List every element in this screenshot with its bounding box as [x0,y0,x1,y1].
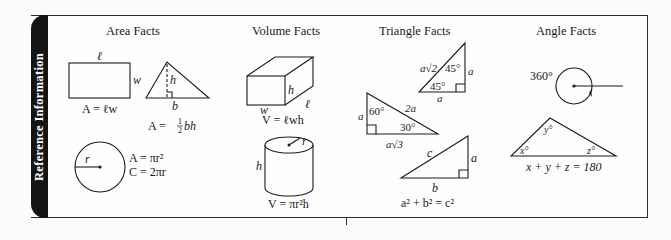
label-45-hypotenuse: a√2 [420,62,438,74]
svg-text:1: 1 [178,117,182,126]
rotation-center-dot [572,84,575,87]
label-triangle-base: b [172,99,178,113]
label-360-degrees: 360° [530,69,553,83]
formula-pythagorean: a² + b² = c² [401,196,454,210]
label-45-angle-bottom: 45° [430,80,445,92]
label-30-hypotenuse: 2a [405,102,417,114]
formula-angle-sum: x + y + z = 180 [525,160,602,174]
formula-circle-area: A = πr² [129,151,164,165]
label-box-height: h [288,83,294,97]
formula-cylinder-volume: V = πr²h [268,197,309,211]
cylinder-center-dot [288,144,291,147]
rectangle-figure [69,63,130,98]
label-45-angle-top: 45° [445,62,460,74]
formula-triangle-area: A = 1 2 bh [148,117,196,135]
formula-box-volume: V = ℓwh [262,113,304,127]
label-45-leg-vertical: a [468,65,474,77]
formula-rect-area: A = ℓw [82,102,118,116]
rectangular-prism-figure [247,57,313,105]
label-cylinder-height: h [256,159,262,173]
label-circle-radius: r [85,152,90,166]
circle-center-dot [98,165,101,168]
label-right-hypotenuse: c [427,146,433,160]
label-45-leg-horizontal: a [437,92,443,104]
triangle-area-figure [146,62,209,98]
label-30-long-leg: a√3 [386,138,404,150]
right-triangle-figure [401,136,468,178]
label-angle-x: x° [519,145,528,156]
label-30-angle: 30° [400,121,415,133]
formula-circle-circumference: C = 2πr [129,165,166,179]
svg-text:2: 2 [178,126,182,135]
svg-text:A =: A = [148,119,166,133]
label-angle-z: z° [586,145,595,156]
label-60-angle: 60° [369,105,384,117]
label-right-leg-vertical: a [471,151,477,165]
label-right-leg-horizontal: b [432,181,438,195]
label-cylinder-radius: r [302,134,307,148]
full-rotation-figure [556,68,623,104]
label-rect-width: w [133,73,141,87]
label-30-short-leg: a [358,110,364,122]
label-angle-y: y° [543,124,552,135]
label-box-length: ℓ [305,97,310,111]
svg-text:bh: bh [184,119,196,133]
label-rect-length: ℓ [97,49,102,63]
label-triangle-height: h [170,73,176,87]
